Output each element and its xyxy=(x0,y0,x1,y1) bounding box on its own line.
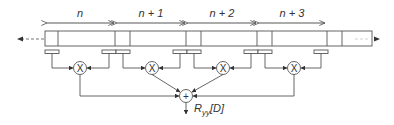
right-arrow-icon xyxy=(374,37,380,42)
tap-registers xyxy=(45,50,328,54)
output-label: Ryy[D] xyxy=(194,102,225,117)
svg-text:+: + xyxy=(183,91,189,102)
segment-label-n3: n + 3 xyxy=(280,7,306,19)
multiplier-3: X xyxy=(217,62,230,75)
sample-buffer xyxy=(45,31,372,46)
svg-text:X: X xyxy=(220,63,227,74)
segment-label-n: n xyxy=(77,7,83,19)
segment-label-n1: n + 1 xyxy=(139,7,164,19)
multiplier-1: X xyxy=(74,62,87,75)
left-dashed-arrow-icon xyxy=(17,37,44,42)
adder: + xyxy=(180,90,193,103)
autocorrelation-diagram: n n + 1 n + 2 n + 3 xyxy=(0,0,394,125)
segment-label-n2: n + 2 xyxy=(210,7,235,19)
multiplier-4: X xyxy=(288,62,301,75)
svg-text:X: X xyxy=(149,63,156,74)
multiplier-2: X xyxy=(146,62,159,75)
svg-text:X: X xyxy=(77,63,84,74)
svg-text:X: X xyxy=(291,63,298,74)
tap-lines xyxy=(52,54,321,69)
